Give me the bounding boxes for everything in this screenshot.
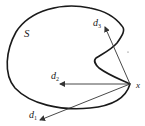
set-label: S — [24, 27, 30, 39]
d1-label: d1 — [29, 109, 37, 121]
vector-d1 — [40, 84, 130, 120]
d2-label: d2 — [51, 70, 59, 82]
vector-d3 — [105, 27, 130, 84]
set-s-boundary — [7, 6, 130, 109]
diagram-canvas: S x d3 d2 d1 — [0, 0, 145, 126]
dot-marker — [127, 51, 128, 52]
point-label: x — [135, 80, 140, 90]
d3-label: d3 — [93, 17, 101, 29]
